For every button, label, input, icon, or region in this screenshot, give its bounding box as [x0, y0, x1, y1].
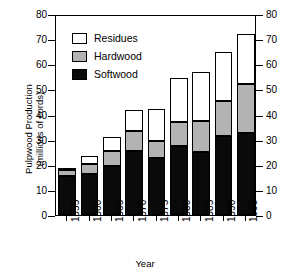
bar-segment-residues-1975: [148, 109, 166, 140]
x-tick-1995: [245, 216, 246, 221]
y-tick-right-30: [256, 141, 263, 142]
y-tick-label-left-40: 40: [7, 111, 47, 121]
y-tick-label-left-0: 0: [7, 211, 47, 221]
x-tick-1960: [89, 216, 90, 221]
x-tick-label-1970: 1970: [138, 200, 148, 222]
legend-label-softwood: Softwood: [94, 69, 138, 80]
x-tick-label-1995: 1995: [249, 200, 259, 222]
y-tick-right-60: [256, 65, 263, 66]
legend-label-residues: Residues: [94, 33, 138, 44]
y-tick-right-10: [256, 191, 263, 192]
bar-segment-hardwood-1960: [81, 164, 99, 174]
bar-segment-hardwood-1995: [237, 84, 255, 133]
bar-1995: [237, 34, 255, 215]
bar-segment-hardwood-1970: [125, 131, 143, 151]
x-tick-label-1960: 1960: [93, 200, 103, 222]
x-tick-label-1955: 1955: [71, 200, 81, 222]
y-tick-label-right-10: 10: [266, 186, 290, 196]
y-tick-label-right-60: 60: [266, 60, 290, 70]
legend-item-hardwood: Hardwood: [72, 48, 142, 65]
legend-swatch-residues: [72, 33, 87, 44]
legend-swatch-hardwood: [72, 51, 87, 62]
bar-segment-hardwood-1975: [148, 141, 166, 159]
y-tick-left-0: [48, 216, 55, 217]
y-tick-label-right-30: 30: [266, 136, 290, 146]
y-tick-right-80: [256, 15, 263, 16]
bar-segment-residues-1960: [81, 156, 99, 164]
y-tick-label-right-40: 40: [266, 111, 290, 121]
pulpwood-production-chart: Pulpwood Production (millions of cords) …: [0, 0, 290, 277]
bar-segment-hardwood-1955: [58, 170, 76, 176]
y-tick-left-80: [48, 15, 55, 16]
bar-segment-residues-1955: [58, 168, 76, 170]
y-tick-left-40: [48, 116, 55, 117]
bar-segment-hardwood-1990: [215, 101, 233, 136]
y-tick-label-right-20: 20: [266, 161, 290, 171]
x-tick-1985: [200, 216, 201, 221]
x-axis-title: Year: [0, 258, 290, 269]
legend: Residues Hardwood Softwood: [72, 30, 142, 84]
bar-segment-residues-1995: [237, 34, 255, 84]
y-tick-label-left-50: 50: [7, 85, 47, 95]
y-tick-label-left-10: 10: [7, 186, 47, 196]
bar-segment-residues-1970: [125, 110, 143, 131]
x-tick-1980: [178, 216, 179, 221]
bar-segment-hardwood-1985: [192, 121, 210, 152]
y-tick-label-right-0: 0: [266, 211, 290, 221]
y-tick-left-50: [48, 90, 55, 91]
x-tick-label-1975: 1975: [160, 200, 170, 222]
bar-segment-hardwood-1980: [170, 122, 188, 146]
x-tick-1955: [66, 216, 67, 221]
bar-1990: [215, 52, 233, 215]
y-tick-left-20: [48, 166, 55, 167]
bar-segment-residues-1965: [103, 137, 121, 151]
x-tick-1965: [111, 216, 112, 221]
x-tick-label-1965: 1965: [115, 200, 125, 222]
bar-segment-residues-1985: [192, 72, 210, 121]
y-tick-label-left-70: 70: [7, 35, 47, 45]
y-tick-left-10: [48, 191, 55, 192]
x-tick-label-1990: 1990: [227, 200, 237, 222]
x-tick-1975: [156, 216, 157, 221]
bar-segment-residues-1980: [170, 78, 188, 122]
legend-item-softwood: Softwood: [72, 66, 142, 83]
x-tick-1990: [223, 216, 224, 221]
y-tick-label-left-80: 80: [7, 10, 47, 20]
x-tick-1970: [133, 216, 134, 221]
legend-swatch-softwood: [72, 69, 87, 80]
y-tick-label-left-60: 60: [7, 60, 47, 70]
bar-1980: [170, 78, 188, 215]
y-tick-label-left-30: 30: [7, 136, 47, 146]
bar-segment-hardwood-1965: [103, 151, 121, 166]
bar-segment-residues-1990: [215, 52, 233, 101]
legend-label-hardwood: Hardwood: [94, 51, 142, 62]
x-tick-label-1980: 1980: [182, 200, 192, 222]
y-tick-right-50: [256, 90, 263, 91]
y-tick-right-20: [256, 166, 263, 167]
y-tick-label-right-50: 50: [266, 85, 290, 95]
y-tick-right-70: [256, 40, 263, 41]
y-tick-left-30: [48, 141, 55, 142]
x-tick-label-1985: 1985: [205, 200, 215, 222]
y-tick-label-right-70: 70: [266, 35, 290, 45]
bar-1985: [192, 72, 210, 215]
legend-item-residues: Residues: [72, 30, 142, 47]
y-tick-left-60: [48, 65, 55, 66]
y-tick-left-70: [48, 40, 55, 41]
y-tick-label-right-80: 80: [266, 10, 290, 20]
y-tick-right-40: [256, 116, 263, 117]
y-tick-label-left-20: 20: [7, 161, 47, 171]
